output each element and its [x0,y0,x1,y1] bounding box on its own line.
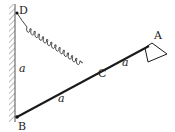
wall [9,4,15,122]
label-B: B [18,120,26,132]
rod [17,46,149,117]
label-rod-BC: a [58,92,65,105]
label-D: D [19,4,28,17]
physics-diagram: D B C A a a a [0,0,175,132]
pivot-B [15,115,19,119]
hanging-plate [145,43,167,62]
spring [17,13,83,65]
label-A: A [153,29,163,42]
label-rod-CA: a [122,56,129,69]
label-C: C [98,67,106,80]
label-wall-length: a [19,62,26,75]
